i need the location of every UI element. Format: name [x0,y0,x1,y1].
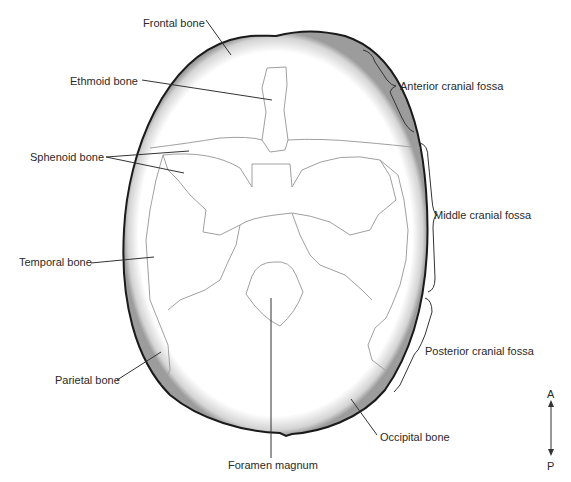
orientation-label-posterior: P [547,460,554,473]
label-temporal-bone: Temporal bone [19,256,92,269]
label-parietal-bone: Parietal bone [55,374,120,387]
label-ethmoid-bone: Ethmoid bone [70,75,138,88]
orientation-label-anterior: A [547,388,554,401]
skull-outline [123,32,427,437]
label-middle-cranial-fossa: Middle cranial fossa [434,209,531,222]
label-sphenoid-bone: Sphenoid bone [30,151,104,164]
label-posterior-cranial-fossa: Posterior cranial fossa [425,345,534,358]
arrow-down-icon [548,449,554,456]
label-frontal-bone: Frontal bone [143,17,205,30]
label-foramen-magnum: Foramen magnum [228,459,318,472]
skull-base-diagram [0,0,571,482]
arrow-up-icon [548,400,554,407]
orientation-arrow [548,400,554,456]
label-anterior-cranial-fossa: Anterior cranial fossa [400,80,503,93]
label-occipital-bone: Occipital bone [380,431,450,444]
